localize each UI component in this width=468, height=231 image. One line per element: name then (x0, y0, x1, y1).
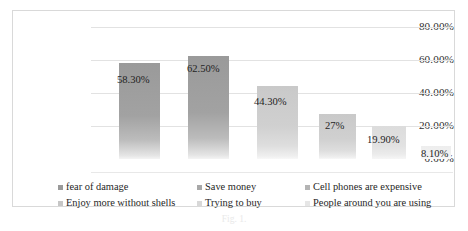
plot-area: 58.30% 62.50% 44.30% 27% 19.90% 8.10% (91, 27, 453, 173)
data-label-cell-phones-are-expensive: 44.30% (254, 97, 287, 108)
legend-item-trying-to-buy[interactable]: Trying to buy (197, 197, 262, 209)
figure-caption: Fig. 1. (0, 214, 468, 228)
legend-label: Save money (205, 181, 256, 193)
legend-swatch-icon (197, 185, 202, 190)
legend-label: Cell phones are expensive (313, 181, 422, 193)
data-label-fear-of-damage: 58.30% (117, 75, 150, 86)
chart-screenshot: 80.00% 60.00% 40.00% 20.00% 0.00% 58.30%… (0, 0, 468, 231)
legend-swatch-icon (305, 201, 310, 206)
legend-item-people-around-you-are-using[interactable]: People around you are using (305, 197, 431, 209)
legend-swatch-icon (197, 201, 202, 206)
gridline-60 (91, 60, 453, 61)
legend-item-enjoy-more-without-shells[interactable]: Enjoy more without shells (58, 197, 175, 209)
data-label-enjoy-more-without-shells: 27% (325, 121, 344, 132)
legend-swatch-icon (58, 201, 63, 206)
legend-item-cell-phones-are-expensive[interactable]: Cell phones are expensive (305, 181, 422, 193)
legend-label: Trying to buy (205, 197, 262, 209)
legend-label: Enjoy more without shells (66, 197, 175, 209)
axis-baseline (91, 172, 453, 173)
legend-item-save-money[interactable]: Save money (197, 181, 256, 193)
chart-legend: fear of damage Save money Cell phones ar… (27, 181, 457, 215)
data-label-trying-to-buy: 19.90% (367, 135, 400, 146)
legend-swatch-icon (58, 185, 63, 190)
legend-label: People around you are using (313, 197, 431, 209)
legend-label: fear of damage (66, 181, 128, 193)
data-label-people-around-you-are-using: 8.10% (421, 149, 448, 160)
legend-item-fear-of-damage[interactable]: fear of damage (58, 181, 128, 193)
legend-swatch-icon (305, 185, 310, 190)
chart-frame: 80.00% 60.00% 40.00% 20.00% 0.00% 58.30%… (12, 10, 455, 207)
gridline-80 (91, 27, 453, 28)
data-label-save-money: 62.50% (187, 64, 220, 75)
